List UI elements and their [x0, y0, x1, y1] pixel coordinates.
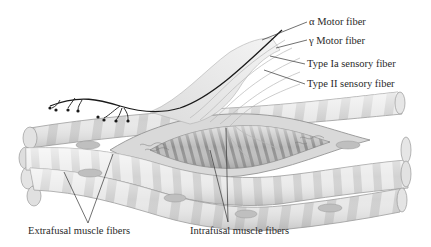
label-type-ii-sensory-fiber: Type II sensory fiber: [307, 79, 395, 90]
fiber-ends-right: [395, 92, 411, 212]
label-type-ia-sensory-fiber: Type Ia sensory fiber: [307, 59, 396, 70]
label-gamma-motor-fiber: γ Motor fiber: [309, 36, 365, 47]
label-extrafusal-muscle-fibers: Extrafusal muscle fibers: [28, 226, 130, 237]
label-alpha-motor-fiber: α Motor fiber: [309, 17, 366, 28]
label-intrafusal-muscle-fibers: Intrafusal muscle fibers: [190, 226, 289, 237]
muscle-spindle-illustration: [0, 0, 431, 247]
